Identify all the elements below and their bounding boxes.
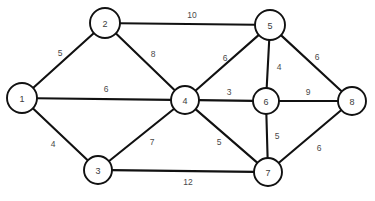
graph-edge-4-7 <box>195 109 258 163</box>
node-label-2: 2 <box>102 19 107 29</box>
node-label-3: 3 <box>95 166 100 176</box>
node-label-1: 1 <box>19 94 24 104</box>
edge-weight-label-3-4: 7 <box>150 137 155 147</box>
graph-edge-7-8 <box>278 110 341 164</box>
edge-weight-label-2-4: 8 <box>151 49 156 59</box>
graph-edge-1-3 <box>33 108 89 161</box>
graph-edge-4-6 <box>198 100 253 101</box>
graph-diagram: 56410871263546596 12345678 <box>0 0 375 201</box>
graph-edge-3-7 <box>111 170 254 172</box>
edge-weight-label-1-4: 6 <box>104 84 109 94</box>
graph-edge-2-5 <box>119 23 255 25</box>
graph-node-5[interactable]: 5 <box>255 10 285 40</box>
graph-edge-5-6 <box>267 39 270 88</box>
graph-edge-3-4 <box>109 108 175 161</box>
graph-edge-1-2 <box>33 33 94 89</box>
node-label-6: 6 <box>263 97 268 107</box>
edge-weight-label-4-6: 3 <box>227 87 232 97</box>
edge-weight-label-2-5: 10 <box>187 10 197 20</box>
graph-edge-1-4 <box>36 98 171 100</box>
graph-node-2[interactable]: 2 <box>90 8 120 38</box>
edge-weight-label-7-8: 6 <box>317 143 322 153</box>
edge-weight-label-4-5: 6 <box>223 53 228 63</box>
graph-edge-6-7 <box>266 113 267 158</box>
graph-node-6[interactable]: 6 <box>253 88 279 114</box>
graph-node-3[interactable]: 3 <box>84 156 112 184</box>
edge-weight-label-1-3: 4 <box>51 139 56 149</box>
node-label-7: 7 <box>265 168 270 178</box>
edge-weight-label-1-2: 5 <box>58 48 63 58</box>
edge-weight-label-5-8: 6 <box>315 52 320 62</box>
node-label-4: 4 <box>182 96 187 106</box>
nodes-layer: 12345678 <box>7 8 366 186</box>
graph-edge-5-8 <box>281 35 342 92</box>
edge-weight-label-4-7: 5 <box>217 137 222 147</box>
graph-node-1[interactable]: 1 <box>7 83 37 113</box>
graph-node-8[interactable]: 8 <box>338 87 366 115</box>
edge-weight-label-6-7: 5 <box>275 131 280 141</box>
graph-node-7[interactable]: 7 <box>254 158 282 186</box>
node-label-8: 8 <box>349 97 354 107</box>
node-label-5: 5 <box>267 21 272 31</box>
graph-node-4[interactable]: 4 <box>171 86 199 114</box>
edge-weight-label-6-8: 9 <box>306 87 311 97</box>
edge-weight-label-5-6: 4 <box>277 62 282 72</box>
edge-weight-label-3-7: 12 <box>183 177 193 187</box>
graph-edge-2-4 <box>115 33 175 91</box>
graph-canvas: 56410871263546596 12345678 <box>0 0 375 201</box>
